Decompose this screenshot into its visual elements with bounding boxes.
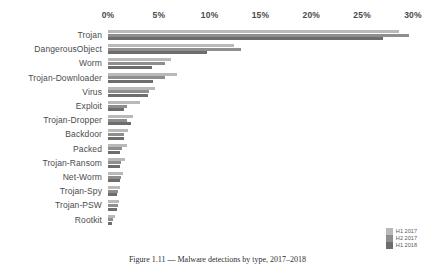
bar-dangerousobject-h1-2018 bbox=[108, 51, 207, 54]
chart-row: Trojan-Spy bbox=[0, 184, 435, 198]
category-label-rootkit: Rootkit bbox=[0, 215, 102, 225]
bar-backdoor-h1-2018 bbox=[108, 137, 124, 140]
bar-trojan-ransom-h1-2018 bbox=[108, 165, 120, 168]
legend-label-h1-2017: H1 2017 bbox=[396, 228, 417, 235]
bar-trojan-spy-h1-2017 bbox=[108, 186, 120, 189]
bar-trojan-downloader-h1-2018 bbox=[108, 80, 153, 83]
chart-row: DangerousObject bbox=[0, 42, 435, 56]
bar-virus-h2-2017 bbox=[108, 90, 149, 93]
x-axis: 0%5%10%15%20%25%30% bbox=[0, 10, 435, 26]
category-label-trojan-downloader: Trojan-Downloader bbox=[0, 73, 102, 83]
bar-packed-h1-2017 bbox=[108, 144, 127, 147]
chart-legend: H1 2017 H2 2017 H1 2018 bbox=[386, 228, 417, 249]
bar-trojan-dropper-h1-2018 bbox=[108, 122, 131, 125]
chart-row: Exploit bbox=[0, 99, 435, 113]
bar-worm-h1-2017 bbox=[108, 58, 171, 61]
bar-packed-h2-2017 bbox=[108, 147, 122, 150]
bar-trojan-dropper-h2-2017 bbox=[108, 119, 127, 122]
bar-net-worm-h2-2017 bbox=[108, 176, 121, 179]
chart-row: Trojan bbox=[0, 28, 435, 42]
chart-row: Worm bbox=[0, 56, 435, 70]
legend-label-h1-2018: H1 2018 bbox=[396, 242, 417, 249]
category-label-exploit: Exploit bbox=[0, 101, 102, 111]
chart-row: Trojan-Dropper bbox=[0, 113, 435, 127]
bar-dangerousobject-h2-2017 bbox=[108, 48, 241, 51]
chart-row: Net-Worm bbox=[0, 170, 435, 184]
bar-dangerousobject-h1-2017 bbox=[108, 44, 234, 47]
legend-swatch-column bbox=[386, 228, 393, 249]
category-label-trojan-dropper: Trojan-Dropper bbox=[0, 115, 102, 125]
bar-backdoor-h2-2017 bbox=[108, 133, 124, 136]
category-label-net-worm: Net-Worm bbox=[0, 172, 102, 182]
x-axis-tick-10: 10% bbox=[201, 10, 219, 20]
bar-rootkit-h1-2018 bbox=[108, 222, 112, 225]
bar-trojan-spy-h2-2017 bbox=[108, 190, 118, 193]
bar-trojan-downloader-h2-2017 bbox=[108, 76, 165, 79]
category-label-virus: Virus bbox=[0, 87, 102, 97]
bar-trojan-ransom-h2-2017 bbox=[108, 161, 121, 164]
bar-rootkit-h2-2017 bbox=[108, 218, 113, 221]
bar-exploit-h2-2017 bbox=[108, 105, 127, 108]
bar-trojan-psw-h2-2017 bbox=[108, 204, 118, 207]
x-axis-tick-25: 25% bbox=[353, 10, 371, 20]
bar-packed-h1-2018 bbox=[108, 151, 120, 154]
category-label-packed: Packed bbox=[0, 144, 102, 154]
legend-label-h2-2017: H2 2017 bbox=[396, 235, 417, 242]
chart-row: Trojan-PSW bbox=[0, 198, 435, 212]
bar-exploit-h1-2017 bbox=[108, 101, 140, 104]
bar-rootkit-h1-2017 bbox=[108, 215, 115, 218]
legend-swatch-h1-2017 bbox=[386, 228, 393, 235]
category-label-trojan-spy: Trojan-Spy bbox=[0, 186, 102, 196]
category-label-backdoor: Backdoor bbox=[0, 129, 102, 139]
bar-worm-h2-2017 bbox=[108, 62, 165, 65]
category-label-trojan: Trojan bbox=[0, 30, 102, 40]
legend-swatch-h2-2017 bbox=[386, 235, 393, 242]
bar-trojan-dropper-h1-2017 bbox=[108, 115, 133, 118]
chart-row: Virus bbox=[0, 85, 435, 99]
bar-worm-h1-2018 bbox=[108, 66, 152, 69]
bar-net-worm-h1-2018 bbox=[108, 179, 120, 182]
x-axis-tick-20: 20% bbox=[303, 10, 321, 20]
chart-row: Packed bbox=[0, 142, 435, 156]
bar-backdoor-h1-2017 bbox=[108, 129, 128, 132]
bar-trojan-psw-h1-2017 bbox=[108, 200, 119, 203]
bar-trojan-psw-h1-2018 bbox=[108, 208, 117, 211]
x-axis-tick-0: 0% bbox=[102, 10, 115, 20]
bar-virus-h1-2018 bbox=[108, 94, 148, 97]
bar-trojan-h1-2017 bbox=[108, 30, 399, 33]
chart-row: Trojan-Ransom bbox=[0, 156, 435, 170]
chart-row: Rootkit bbox=[0, 213, 435, 227]
chart-row: Backdoor bbox=[0, 127, 435, 141]
legend-swatch-h1-2018 bbox=[386, 242, 393, 249]
bar-virus-h1-2017 bbox=[108, 87, 155, 90]
category-label-dangerousobject: DangerousObject bbox=[0, 44, 102, 54]
bar-trojan-spy-h1-2018 bbox=[108, 193, 117, 196]
bar-trojan-downloader-h1-2017 bbox=[108, 73, 177, 76]
bar-trojan-h2-2017 bbox=[108, 34, 409, 37]
bar-exploit-h1-2018 bbox=[108, 108, 124, 111]
category-label-trojan-ransom: Trojan-Ransom bbox=[0, 158, 102, 168]
category-label-trojan-psw: Trojan-PSW bbox=[0, 200, 102, 210]
legend-label-column: H1 2017 H2 2017 H1 2018 bbox=[396, 228, 417, 249]
bar-net-worm-h1-2017 bbox=[108, 172, 123, 175]
x-axis-tick-15: 15% bbox=[252, 10, 270, 20]
category-label-worm: Worm bbox=[0, 58, 102, 68]
x-axis-tick-30: 30% bbox=[404, 10, 422, 20]
figure-caption: Figure 1.11 — Malware detections by type… bbox=[0, 255, 435, 264]
x-axis-tick-5: 5% bbox=[152, 10, 165, 20]
bar-trojan-ransom-h1-2017 bbox=[108, 158, 125, 161]
plot-area: TrojanDangerousObjectWormTrojan-Download… bbox=[0, 27, 435, 248]
chart-row: Trojan-Downloader bbox=[0, 71, 435, 85]
bar-trojan-h1-2018 bbox=[108, 37, 383, 40]
